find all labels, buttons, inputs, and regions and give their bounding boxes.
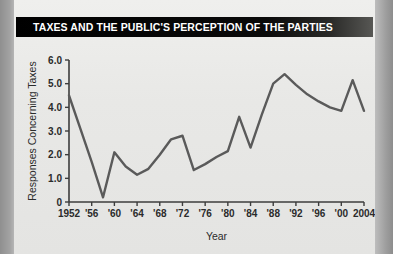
x-tick-label: '84 [244,208,258,219]
y-tick-label: 1.0 [48,173,62,184]
figure-container: TAXES AND THE PUBLIC'S PERCEPTION OF THE… [0,0,393,254]
y-tick-label: 3.0 [48,126,62,137]
chart-plot-area: 01.02.03.04.05.06.0 1952'56'60'64'68'72'… [14,37,375,254]
y-axis: 01.02.03.04.05.06.0 [48,55,69,208]
x-tick-label: '68 [153,208,167,219]
x-tick-label: '56 [85,208,99,219]
line-chart: 01.02.03.04.05.06.0 1952'56'60'64'68'72'… [14,37,375,254]
x-axis: 1952'56'60'64'68'72'76'80'84'88'92'96'00… [58,202,375,219]
x-tick-label: '92 [289,208,303,219]
x-tick-label: '60 [108,208,122,219]
x-tick-label: '00 [335,208,349,219]
series-line [69,74,364,197]
x-tick-label: '96 [312,208,326,219]
right-margin [375,0,393,254]
page-title: TAXES AND THE PUBLIC'S PERCEPTION OF THE… [16,21,333,33]
x-tick-label: 1952 [58,208,81,219]
x-tick-label: '88 [266,208,280,219]
x-tick-label: '64 [130,208,144,219]
title-banner: TAXES AND THE PUBLIC'S PERCEPTION OF THE… [16,17,373,37]
x-tick-label: '72 [176,208,190,219]
data-series [69,74,364,197]
y-tick-label: 5.0 [48,78,62,89]
x-tick-label: '76 [198,208,212,219]
y-tick-label: 0 [56,197,62,208]
x-tick-label: 2004 [353,208,375,219]
y-tick-label: 4.0 [48,102,62,113]
x-axis-title: Year [206,230,228,242]
y-tick-label: 2.0 [48,149,62,160]
y-axis-title: Responses Concerning Taxes [26,61,38,200]
y-tick-label: 6.0 [48,55,62,66]
x-tick-label: '80 [221,208,235,219]
